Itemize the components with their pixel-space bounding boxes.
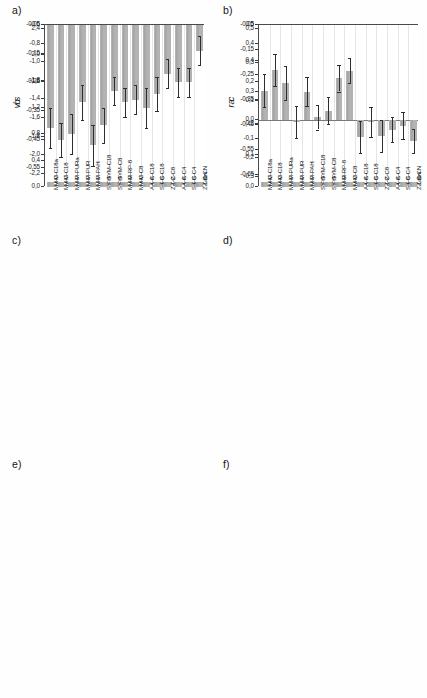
y-tick-mark: [255, 186, 258, 187]
error-bar-cap-top: [113, 77, 117, 78]
y-tick-label: 0,0: [228, 182, 254, 189]
y-tick-label: -0,1: [228, 134, 254, 141]
y-tick-mark: [255, 138, 258, 139]
error-bar-cap-bottom: [391, 142, 395, 143]
panel-letter-a: a): [12, 4, 22, 16]
error-bar-cap-top: [412, 129, 416, 130]
panel-letter-f: f): [223, 458, 230, 470]
error-bar-line: [403, 112, 404, 139]
panel-letter-c: c): [12, 234, 21, 246]
x-tick-label: M-C18a: [52, 159, 59, 180]
x-tick-label: S-C18: [158, 163, 165, 180]
x-tick-label: M-RP-8: [340, 160, 347, 180]
grid-line: [109, 25, 110, 176]
grid-line: [130, 25, 131, 176]
grid-line: [162, 25, 163, 176]
grid-line: [366, 25, 367, 176]
grid-line: [312, 25, 313, 176]
y-tick-label: -0,25: [14, 77, 40, 84]
x-tick-label: M-PUR: [298, 161, 305, 180]
panel-letter-b: b): [223, 4, 233, 16]
error-bar-line: [328, 97, 329, 124]
y-tick-mark: [255, 43, 258, 44]
x-tick-label: Z-CN: [201, 166, 208, 180]
y-tick-label: -0,8: [14, 39, 40, 46]
y-tick-label: -2,0: [14, 150, 40, 157]
grid-line: [56, 25, 57, 176]
grid-line: [141, 25, 142, 176]
error-bar-line: [82, 85, 83, 119]
y-tick-label: -0,35: [14, 106, 40, 113]
y-tick-label: -1,6: [14, 113, 40, 120]
panel-d: d)a-0,05-0,15-0,25-0,35-0,45-0,55-0,65M-…: [213, 232, 427, 464]
error-bar-line: [264, 74, 265, 106]
y-tick-mark: [41, 81, 44, 82]
error-bar-cap-bottom: [380, 152, 384, 153]
error-bar-cap-bottom: [198, 65, 202, 66]
error-bar-cap-top: [380, 120, 384, 121]
x-tick-label: SYM-C8: [116, 158, 123, 180]
y-tick-label: 0,3: [228, 58, 254, 65]
grid-line: [376, 25, 377, 176]
panel-letter-e: e): [12, 458, 22, 470]
y-tick-mark: [41, 53, 44, 54]
error-bar-cap-bottom: [145, 128, 149, 129]
error-bar-line: [371, 107, 372, 137]
error-bar-cap-bottom: [155, 111, 159, 112]
grid-line: [334, 25, 335, 176]
error-bar-cap-bottom: [316, 130, 320, 131]
y-tick-mark: [41, 186, 44, 187]
plot-area-e: [44, 24, 204, 176]
y-tick-label: 0,2: [228, 77, 254, 84]
error-bar-line: [125, 88, 126, 117]
grid-line: [270, 25, 271, 176]
error-bar-cap-bottom: [327, 124, 331, 125]
y-tick-label: 0,5: [228, 20, 254, 27]
error-bar-cap-top: [70, 114, 74, 115]
y-tick-mark: [255, 62, 258, 63]
x-tick-label: M-RP-8: [126, 160, 133, 180]
error-bar-line: [104, 108, 105, 142]
x-tick-label: A-C4: [394, 167, 401, 180]
y-tick-mark: [41, 139, 44, 140]
error-bar-cap-top: [295, 106, 299, 107]
error-bar-cap-top: [134, 85, 138, 86]
error-bar-line: [61, 123, 62, 157]
error-bar-cap-bottom: [59, 157, 63, 158]
error-bar-cap-bottom: [81, 120, 85, 121]
y-tick-label: -0,15: [228, 45, 254, 52]
panel-letter-d: d): [223, 234, 233, 246]
grid-line: [120, 25, 121, 176]
error-bar-cap-top: [145, 88, 149, 89]
x-tick-label: M-PURa: [73, 158, 80, 180]
error-bar-cap-top: [316, 105, 320, 106]
y-tick-label: 0,0: [14, 182, 40, 189]
error-bar-line: [157, 77, 158, 111]
y-tick-mark: [255, 119, 258, 120]
error-bar-cap-top: [348, 58, 352, 59]
error-bar-line: [360, 121, 361, 153]
error-bar-cap-top: [59, 123, 63, 124]
grid-line: [66, 25, 67, 176]
x-tick-label: M-PAH: [94, 162, 101, 180]
error-bar-line: [200, 36, 201, 65]
error-bar-line: [339, 65, 340, 92]
error-bar-cap-top: [327, 97, 331, 98]
error-bar-line: [189, 68, 190, 97]
error-bar-line: [307, 77, 308, 106]
y-tick-label: 0,1: [228, 96, 254, 103]
y-tick-label: -1,0: [14, 57, 40, 64]
error-bar-cap-top: [102, 108, 106, 109]
error-bar-line: [382, 120, 383, 152]
y-tick-mark: [255, 176, 258, 177]
y-tick-label: 0,4: [228, 39, 254, 46]
y-tick-label: -0,15: [14, 49, 40, 56]
y-tick-mark: [255, 81, 258, 82]
x-tick-label: M-C8: [351, 166, 358, 180]
error-bar-cap-top: [284, 66, 288, 67]
y-tick-mark: [41, 24, 44, 25]
y-tick-label: -0,2: [228, 153, 254, 160]
x-tick-label: M-C18: [276, 162, 283, 180]
y-tick-mark: [255, 100, 258, 101]
x-tick-label: Z-C8: [169, 167, 176, 180]
